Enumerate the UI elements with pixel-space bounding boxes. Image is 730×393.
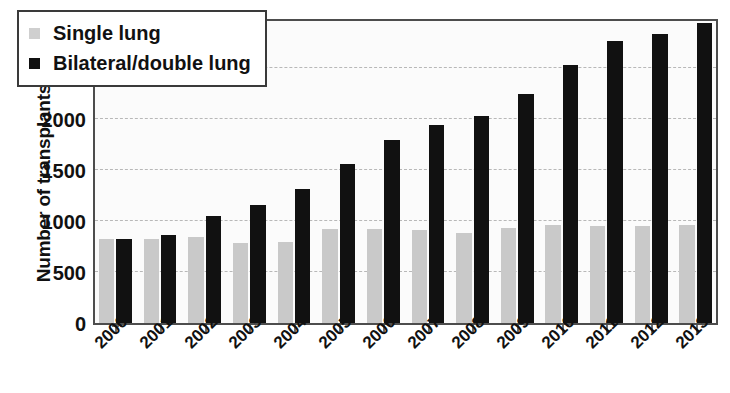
bar-group-2008 [452, 21, 497, 323]
bar-single-lung-2006 [367, 229, 382, 323]
bar-bilateral-double-lung-2013 [697, 23, 712, 323]
bar-group-2012 [631, 21, 676, 323]
legend-swatch-bilateral-double-lung-icon [29, 58, 40, 69]
bar-bilateral-double-lung-2011 [607, 41, 622, 323]
bar-single-lung-2004 [278, 242, 293, 323]
bar-bilateral-double-lung-2004 [295, 189, 310, 323]
bar-single-lung-2011 [590, 226, 605, 323]
bar-group-2006 [363, 21, 408, 323]
y-tick-label-1000: 1000 [28, 212, 86, 232]
y-tick-label-1500: 1500 [28, 161, 86, 181]
bar-single-lung-2003 [233, 243, 248, 323]
bar-single-lung-2002 [188, 237, 203, 323]
legend-swatch-single-lung-icon [29, 28, 40, 39]
bar-bilateral-double-lung-2010 [563, 65, 578, 323]
y-tick-label-500: 500 [28, 263, 86, 283]
bar-group-2007 [408, 21, 453, 323]
bar-single-lung-2001 [144, 239, 159, 323]
legend-label: Single lung [53, 22, 161, 45]
bar-bilateral-double-lung-2006 [384, 140, 399, 323]
bar-group-2010 [541, 21, 586, 323]
bar-single-lung-2008 [456, 233, 471, 323]
legend: Single lungBilateral/double lung [17, 10, 267, 87]
bar-group-2009 [497, 21, 542, 323]
bar-single-lung-2000 [99, 239, 114, 323]
y-tick-label-0: 0 [28, 314, 86, 334]
legend-label: Bilateral/double lung [53, 52, 251, 75]
bar-group-2013 [675, 21, 718, 323]
bar-group-2004 [274, 21, 319, 323]
legend-item-single-lung: Single lung [29, 18, 251, 48]
y-tick-label-2000: 2000 [28, 110, 86, 130]
bar-chart: Number of transplants 300025002000150010… [0, 0, 730, 393]
bar-bilateral-double-lung-2009 [518, 94, 533, 324]
bar-bilateral-double-lung-2007 [429, 125, 444, 323]
bar-single-lung-2013 [679, 225, 694, 323]
bar-single-lung-2007 [412, 230, 427, 323]
x-axis: 2000200120022003200420052006200720082009… [93, 325, 718, 393]
bar-bilateral-double-lung-2012 [652, 34, 667, 323]
bar-bilateral-double-lung-2005 [340, 164, 355, 323]
bar-bilateral-double-lung-2000 [116, 239, 131, 323]
bar-group-2011 [586, 21, 631, 323]
bar-bilateral-double-lung-2002 [206, 216, 221, 323]
bar-group-2005 [318, 21, 363, 323]
bar-single-lung-2012 [635, 226, 650, 323]
bar-bilateral-double-lung-2003 [250, 205, 265, 323]
bar-single-lung-2010 [545, 225, 560, 323]
bar-bilateral-double-lung-2001 [161, 235, 176, 323]
legend-item-bilateral-double-lung: Bilateral/double lung [29, 48, 251, 78]
bar-bilateral-double-lung-2008 [474, 116, 489, 323]
bar-single-lung-2005 [322, 229, 337, 323]
bar-single-lung-2009 [501, 228, 516, 323]
